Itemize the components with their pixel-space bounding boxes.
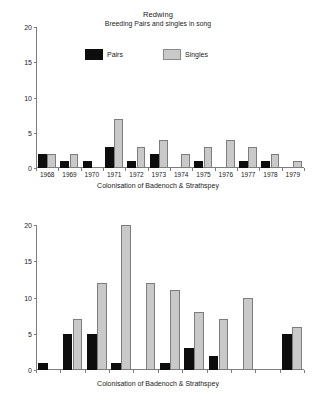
- bar-pairs-1973: [150, 154, 159, 168]
- bar-singles-1973: [159, 140, 168, 168]
- bar-singles-1968: [47, 154, 56, 168]
- x-tick: [304, 168, 305, 171]
- bar-pairs-1987: [209, 356, 219, 371]
- plot-area-bottom: 05101520: [36, 225, 304, 370]
- x-tick: [58, 168, 59, 171]
- x-tick: [182, 370, 183, 373]
- y-tick-label: 10: [24, 94, 32, 101]
- bar-pairs-1975: [194, 161, 203, 168]
- bar-pairs-1972: [127, 161, 136, 168]
- x-tick: [158, 370, 159, 373]
- y-tick: [34, 133, 37, 134]
- bar-pairs-1978: [261, 161, 270, 168]
- bar-singles-1984: [146, 283, 156, 370]
- y-tick-label: 10: [24, 294, 32, 301]
- bars-container-top: [36, 27, 304, 168]
- y-tick: [34, 334, 37, 335]
- x-tick: [282, 168, 283, 171]
- bar-singles-1983: [121, 225, 131, 370]
- y-tick: [34, 27, 37, 28]
- bar-singles-1987: [219, 319, 229, 370]
- chart-title: Redwing: [0, 10, 316, 19]
- bar-singles-1976: [226, 140, 235, 168]
- y-tick: [34, 98, 37, 99]
- x-tick: [304, 370, 305, 373]
- y-tick: [34, 298, 37, 299]
- x-tick-label-1973: 1973: [152, 171, 166, 178]
- plot-area-top: 05101520: [36, 27, 304, 168]
- bar-pairs-1990: [282, 334, 292, 370]
- y-tick-label: 15: [24, 258, 32, 265]
- x-tick: [231, 370, 232, 373]
- x-tick: [36, 370, 37, 373]
- x-tick-label-1968: 1968: [40, 171, 54, 178]
- bar-pairs-1971: [105, 147, 114, 168]
- x-axis-title-bottom: Colonisation of Badenoch & Strathspey: [0, 380, 316, 387]
- bar-singles-1975: [204, 147, 213, 168]
- x-tick: [133, 370, 134, 373]
- x-tick: [215, 168, 216, 171]
- x-tick: [36, 168, 37, 171]
- y-tick-label: 0: [28, 367, 32, 374]
- x-tick: [255, 370, 256, 373]
- y-tick: [34, 225, 37, 226]
- x-tick-label-1978: 1978: [263, 171, 277, 178]
- y-tick-label: 5: [28, 330, 32, 337]
- x-tick: [192, 168, 193, 171]
- chart-top-titles: Redwing Breeding Pairs and singles in so…: [0, 10, 316, 27]
- x-tick: [170, 168, 171, 171]
- x-tick: [60, 370, 61, 373]
- x-tick: [237, 168, 238, 171]
- x-tick-label-1979: 1979: [286, 171, 300, 178]
- x-tick-label-1975: 1975: [196, 171, 210, 178]
- x-tick: [103, 168, 104, 171]
- chart-top: Redwing Breeding Pairs and singles in so…: [0, 0, 316, 200]
- bar-pairs-1983: [111, 363, 121, 370]
- y-tick: [34, 62, 37, 63]
- bar-singles-1978: [271, 154, 280, 168]
- bar-pairs-1986: [184, 348, 194, 370]
- bar-pairs-1969: [60, 161, 69, 168]
- bar-pairs-1968: [38, 154, 47, 168]
- bar-singles-1974: [181, 154, 190, 168]
- y-tick-label: 0: [28, 165, 32, 172]
- chart-page: Redwing Breeding Pairs and singles in so…: [0, 0, 316, 408]
- x-tick-label-1971: 1971: [107, 171, 121, 178]
- x-tick-label-1969: 1969: [62, 171, 76, 178]
- bar-singles-1985: [170, 290, 180, 370]
- bar-pairs-1970: [83, 161, 92, 168]
- x-tick-label-1977: 1977: [241, 171, 255, 178]
- y-tick: [34, 261, 37, 262]
- bar-singles-1972: [137, 147, 146, 168]
- x-tick-label-1976: 1976: [219, 171, 233, 178]
- bar-singles-1990: [292, 327, 302, 371]
- bar-singles-1988: [243, 298, 253, 371]
- x-tick-label-1970: 1970: [85, 171, 99, 178]
- y-tick-label: 15: [24, 59, 32, 66]
- x-axis-title-top: Colonisation of Badenoch & Strathspey: [0, 182, 316, 189]
- x-tick: [85, 370, 86, 373]
- x-tick: [280, 370, 281, 373]
- bar-pairs-1981: [63, 334, 73, 370]
- y-tick-label: 20: [24, 222, 32, 229]
- chart-bottom: 05101520 1980198119821983198419851986198…: [0, 200, 316, 408]
- bar-pairs-1977: [239, 161, 248, 168]
- x-tick: [259, 168, 260, 171]
- x-tick-label-1972: 1972: [129, 171, 143, 178]
- bars-container-bottom: [36, 225, 304, 370]
- bar-singles-1982: [97, 283, 107, 370]
- x-tick: [148, 168, 149, 171]
- y-tick-label: 20: [24, 24, 32, 31]
- bar-singles-1986: [194, 312, 204, 370]
- bar-pairs-1982: [87, 334, 97, 370]
- x-tick: [109, 370, 110, 373]
- bar-singles-1977: [248, 147, 257, 168]
- bar-singles-1971: [114, 119, 123, 168]
- bar-singles-1979: [293, 161, 302, 168]
- bar-pairs-1980: [38, 363, 48, 370]
- bar-singles-1981: [73, 319, 83, 370]
- x-tick: [207, 370, 208, 373]
- x-tick-label-1974: 1974: [174, 171, 188, 178]
- chart-subtitle: Breeding Pairs and singles in song: [0, 20, 316, 27]
- x-tick: [125, 168, 126, 171]
